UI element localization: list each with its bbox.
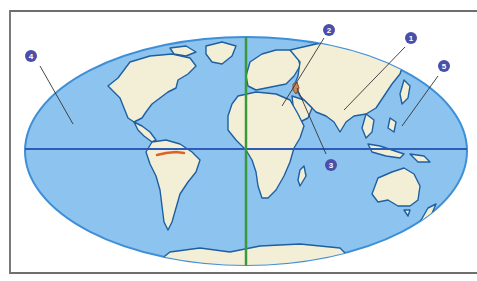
marker-3-label: 3 — [329, 161, 334, 170]
marker-2-label: 2 — [327, 26, 332, 35]
marker-1-label: 1 — [409, 34, 414, 43]
marker-5[interactable]: 5 — [438, 60, 450, 72]
marker-3[interactable]: 3 — [325, 159, 337, 171]
marker-2[interactable]: 2 — [323, 24, 335, 36]
marker-1[interactable]: 1 — [405, 32, 417, 44]
marker-5-label: 5 — [442, 62, 447, 71]
marker-4-label: 4 — [29, 52, 34, 61]
world-map: 1 2 3 4 5 — [0, 0, 477, 281]
marker-4[interactable]: 4 — [25, 50, 37, 62]
